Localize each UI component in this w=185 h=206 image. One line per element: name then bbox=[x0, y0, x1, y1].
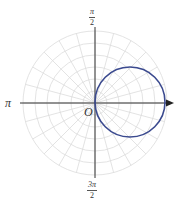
label-pi-over-2: π 2 bbox=[89, 8, 95, 27]
label-origin: O bbox=[84, 106, 93, 118]
grid-radial-line bbox=[33, 67, 95, 103]
grid-radial-line bbox=[95, 52, 146, 103]
grid-radial-line bbox=[95, 103, 157, 139]
label-top-denominator: 2 bbox=[89, 18, 95, 27]
polar-graph: π 2 π O 3π 2 bbox=[0, 0, 185, 206]
polar-grid-plot bbox=[0, 0, 185, 206]
grid-radial-line bbox=[44, 52, 95, 103]
label-3pi-over-2: 3π 2 bbox=[87, 181, 97, 200]
label-top-numerator: π bbox=[89, 8, 95, 18]
label-bottom-denominator: 2 bbox=[89, 191, 95, 200]
polar-curve-circle bbox=[95, 67, 165, 137]
polar-axis-arrow-icon bbox=[166, 100, 174, 107]
axes bbox=[20, 27, 174, 178]
label-pi: π bbox=[5, 97, 11, 109]
grid-radial-line bbox=[95, 103, 131, 165]
grid-radial-line bbox=[59, 41, 95, 103]
grid-radial-line bbox=[95, 103, 146, 154]
label-bottom-numerator: 3π bbox=[87, 181, 97, 191]
